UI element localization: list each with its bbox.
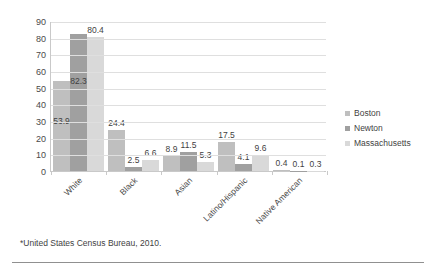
bar-group: 53.982.380.4 — [51, 22, 106, 171]
bar-value-label: 24.4 — [108, 119, 125, 128]
bar-value-label: 2.5 — [128, 156, 140, 165]
bar[interactable] — [218, 142, 235, 171]
gridline — [51, 55, 326, 56]
bar-value-label: 6.6 — [145, 149, 157, 158]
y-axis-tick-label: 60 — [16, 68, 46, 77]
x-axis-category-cell: Native American — [271, 174, 326, 220]
census-demographics-bar-chart: 0102030405060708090 53.982.380.424.42.56… — [0, 0, 436, 269]
legend-swatch-icon — [345, 111, 350, 116]
y-axis-tick-label: 30 — [16, 118, 46, 127]
bar-groups: 53.982.380.424.42.56.68.911.55.317.54.19… — [51, 22, 326, 171]
bar[interactable] — [307, 171, 324, 172]
source-footnote: *United States Census Bureau, 2010. — [20, 238, 161, 248]
y-axis-tick-label: 80 — [16, 34, 46, 43]
x-axis-tick — [327, 171, 328, 175]
bar-group: 24.42.56.6 — [106, 22, 161, 171]
x-axis-label-asian: Asian — [173, 176, 194, 197]
y-axis-tick-label: 70 — [16, 51, 46, 60]
bar-value-label: 0.1 — [293, 160, 305, 169]
x-axis-label-black: Black — [118, 176, 139, 197]
legend-label: Massachusetts — [354, 139, 411, 148]
bar[interactable] — [273, 170, 290, 171]
x-axis-category-cell: White — [50, 174, 105, 220]
x-axis-category-cell: Black — [105, 174, 160, 220]
gridline — [51, 122, 326, 123]
legend-label: Boston — [354, 109, 380, 118]
bar-group: 8.911.55.3 — [161, 22, 216, 171]
gridline — [51, 139, 326, 140]
bar-value-label: 11.5 — [181, 141, 197, 150]
bar[interactable] — [142, 160, 159, 171]
x-axis-label-white: White — [62, 176, 84, 198]
legend-label: Newton — [354, 124, 383, 133]
bar-value-label: 82.3 — [70, 77, 87, 86]
bar[interactable] — [235, 164, 252, 171]
bar[interactable] — [87, 37, 104, 171]
legend-item[interactable]: Newton — [345, 121, 433, 136]
bar-group: 0.40.10.3 — [271, 22, 326, 171]
gridline — [51, 72, 326, 73]
y-axis-tick-label: 0 — [16, 168, 46, 177]
bar[interactable] — [197, 162, 214, 171]
bar-value-label: 8.9 — [166, 145, 178, 154]
bar-value-label: 0.4 — [276, 159, 288, 168]
legend-swatch-icon — [345, 141, 350, 146]
legend-swatch-icon — [345, 126, 350, 131]
plot-area: 53.982.380.424.42.56.68.911.55.317.54.19… — [50, 22, 326, 172]
y-axis-tick-label: 90 — [16, 18, 46, 27]
legend-item[interactable]: Massachusetts — [345, 136, 433, 151]
y-axis-tick-label: 40 — [16, 101, 46, 110]
y-axis-tick-label: 20 — [16, 134, 46, 143]
bar-value-label: 0.3 — [310, 160, 322, 169]
bar[interactable] — [125, 167, 142, 171]
y-axis-tick-label: 50 — [16, 84, 46, 93]
gridline — [51, 89, 326, 90]
bars — [51, 22, 106, 171]
bar-group: 17.54.19.6 — [216, 22, 271, 171]
bar[interactable] — [163, 156, 180, 171]
bars — [271, 22, 326, 171]
x-axis-category-labels: WhiteBlackAsianLatino/HispanicNative Ame… — [50, 174, 326, 220]
gridline — [51, 22, 326, 23]
horizontal-divider — [12, 262, 424, 263]
legend-item[interactable]: Boston — [345, 106, 433, 121]
gridline — [51, 105, 326, 106]
gridline — [51, 39, 326, 40]
bar-value-label: 80.4 — [87, 26, 104, 35]
legend: BostonNewtonMassachusetts — [345, 106, 433, 151]
y-axis-tick-label: 10 — [16, 151, 46, 160]
bar[interactable] — [252, 155, 269, 171]
bar[interactable] — [108, 130, 125, 171]
gridline — [51, 155, 326, 156]
y-axis: 0102030405060708090 — [16, 8, 46, 172]
bar-value-label: 9.6 — [255, 144, 267, 153]
bar[interactable] — [290, 171, 307, 172]
